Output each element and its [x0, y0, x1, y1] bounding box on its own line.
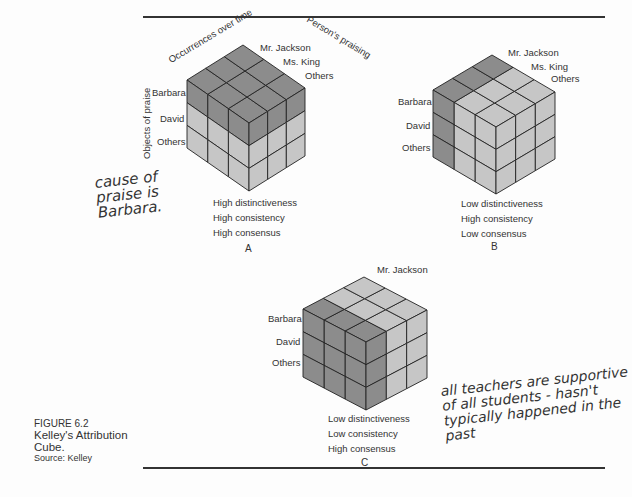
cube-c-letter: C	[361, 457, 368, 468]
cube-b-object-label-2: David	[406, 121, 430, 131]
cube-b-condition-1: Low distinctiveness	[461, 196, 543, 211]
figure-source: Source: Kelley	[34, 453, 144, 464]
axis-label-objects: Objects of praise	[141, 88, 152, 159]
cube-a-letter: A	[245, 243, 252, 254]
cube-c-object-label-3: Others	[272, 358, 301, 368]
figure-number: FIGURE 6.2	[34, 418, 144, 429]
cube-b-person-label-1: Mr. Jackson	[508, 48, 559, 58]
cube-a-object-label-3: Others	[157, 137, 186, 147]
cube-a-condition-3: High consensus	[213, 225, 297, 240]
cube-a-object-label-2: David	[160, 114, 184, 124]
cube-c-object-label-1: Barbara	[268, 314, 302, 324]
cube-c-condition-3: High consensus	[328, 441, 410, 456]
figure-caption: FIGURE 6.2 Kelley's Attribution Cube. So…	[34, 418, 144, 464]
cube-b-conditions: Low distinctiveness High consistency Low…	[461, 196, 543, 241]
cube-b-letter: B	[491, 241, 498, 252]
cube-c-conditions: Low distinctiveness Low consistency High…	[328, 411, 410, 456]
cube-b-condition-3: Low consensus	[461, 226, 543, 241]
cube-b-object-label-3: Others	[402, 143, 431, 153]
cube-a-condition-1: High distinctiveness	[213, 195, 297, 210]
cube-c-person-label-1: Mr. Jackson	[377, 265, 428, 275]
cube-c-object-label-2: David	[276, 337, 300, 347]
cube-a-person-label-2: Ms. King	[283, 57, 320, 67]
cube-a-condition-2: High consistency	[213, 210, 297, 225]
cube-b-person-label-3: Others	[551, 74, 580, 84]
handwritten-note-cause: cause of praise is Barbara.	[94, 169, 163, 220]
cube-c-condition-2: Low consistency	[328, 426, 410, 441]
cube-b-condition-2: High consistency	[461, 211, 543, 226]
cube-a-conditions: High distinctiveness High consistency Hi…	[213, 195, 297, 240]
cube-a-object-label-1: Barbara	[152, 88, 186, 98]
cube-b-object-label-1: Barbara	[398, 97, 432, 107]
cube-a-person-label-1: Mr. Jackson	[260, 43, 311, 53]
figure-title: Kelley's Attribution Cube.	[34, 429, 144, 453]
cube-b-person-label-2: Ms. King	[531, 62, 568, 72]
cube-a-person-label-3: Others	[305, 71, 334, 81]
cube-c-condition-1: Low distinctiveness	[328, 411, 410, 426]
